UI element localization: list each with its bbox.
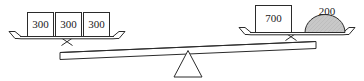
right-assembly: 700 200: [239, 5, 355, 41]
left-pan-box-1-label: 300: [32, 18, 49, 30]
balance-scale-svg: 300 300 300: [0, 0, 364, 81]
left-pan-box-3-label: 300: [88, 18, 105, 30]
right-pan-dome-200: 200: [305, 5, 345, 33]
balance-scale-figure: 300 300 300: [0, 0, 364, 81]
right-pan-dome-200-label: 200: [319, 5, 336, 17]
right-pan-box-700-label: 700: [265, 12, 282, 24]
left-pan-box-1: 300: [28, 13, 54, 37]
left-assembly: 300 300 300: [9, 13, 125, 46]
dome-shape: [305, 15, 345, 33]
left-pan-box-3: 300: [84, 13, 110, 37]
left-pan-box-2-label: 300: [60, 18, 77, 30]
right-pan-box-700: 700: [256, 6, 292, 33]
left-pan-box-2: 300: [56, 13, 82, 37]
